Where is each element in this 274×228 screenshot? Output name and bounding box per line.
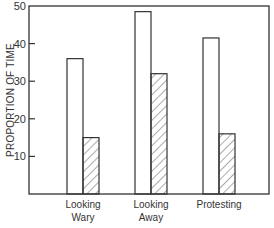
- bar-looking-away-hatched: [151, 74, 167, 194]
- bar-protesting-hatched: [219, 134, 235, 194]
- category-label: Protesting: [196, 199, 241, 210]
- bar-protesting-open: [203, 38, 219, 194]
- category-label: Looking: [65, 199, 100, 210]
- y-axis-label: PROPORTION OF TIME: [5, 43, 16, 157]
- bars: [67, 12, 235, 194]
- category-label: Wary: [72, 212, 95, 223]
- bar-looking-wary-open: [67, 59, 83, 194]
- x-axis-category-labels: LookingWaryLookingAwayProtesting: [65, 199, 241, 223]
- bar-chart: 1020304050 LookingWaryLookingAwayProtest…: [0, 0, 274, 228]
- category-label: Away: [139, 212, 163, 223]
- y-axis-ticks: 1020304050: [14, 0, 35, 162]
- category-label: Looking: [133, 199, 168, 210]
- bar-looking-away-open: [135, 12, 151, 194]
- y-tick-label: 50: [14, 0, 26, 12]
- bar-looking-wary-hatched: [83, 138, 99, 194]
